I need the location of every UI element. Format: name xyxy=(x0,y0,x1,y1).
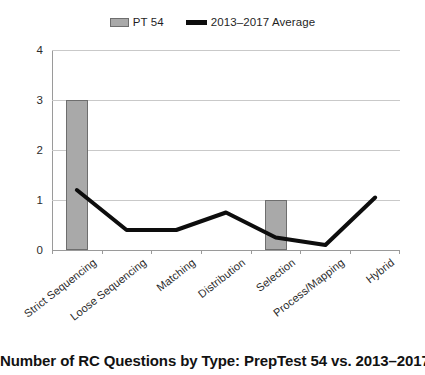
x-label-selection: Selection xyxy=(253,256,297,294)
x-label-matching: Matching xyxy=(154,256,197,293)
legend-bar-swatch-icon xyxy=(110,18,129,27)
chart-figure: PT 54 2013–2017 Average 4 3 2 1 0 xyxy=(0,0,425,375)
legend-line-swatch-icon xyxy=(186,20,207,25)
x-axis-category-labels: Strict Sequencing Loose Sequencing Match… xyxy=(52,250,400,312)
x-label-hybrid: Hybrid xyxy=(364,256,397,285)
legend-label-average: 2013–2017 Average xyxy=(211,16,315,28)
y-tick-label-1: 1 xyxy=(37,194,43,206)
legend-entry-average: 2013–2017 Average xyxy=(186,16,315,28)
x-label-distribution: Distribution xyxy=(196,256,248,300)
average-line-path xyxy=(77,190,375,245)
y-tick-label-0: 0 xyxy=(37,244,43,256)
legend-label-pt54: PT 54 xyxy=(133,16,164,28)
y-tick-label-2: 2 xyxy=(37,144,43,156)
average-line-series xyxy=(52,50,400,250)
chart-title: Number of RC Questions by Type: PrepTest… xyxy=(0,352,425,369)
plot-area: 4 3 2 1 0 xyxy=(52,50,400,250)
legend-entry-pt54: PT 54 xyxy=(110,16,164,28)
y-tick-label-4: 4 xyxy=(37,44,43,56)
y-tick-label-3: 3 xyxy=(37,94,43,106)
chart-legend: PT 54 2013–2017 Average xyxy=(0,16,425,28)
